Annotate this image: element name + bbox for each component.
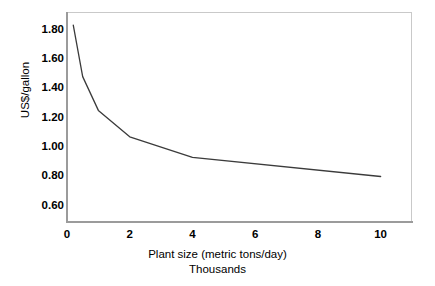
series-layer (0, 0, 435, 286)
chart-figure: 0.600.801.001.201.401.601.80 US$/gallon … (0, 0, 435, 286)
data-line-cost-per-gallon (73, 25, 380, 176)
